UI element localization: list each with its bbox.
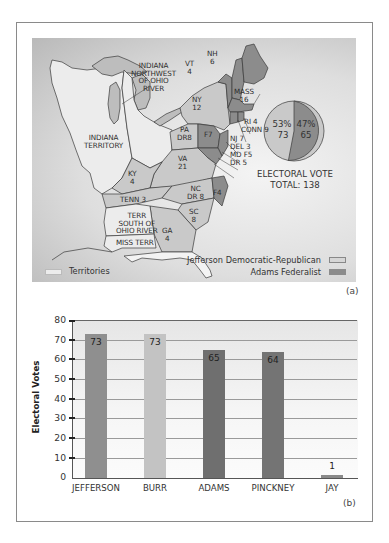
bar-burr (144, 334, 166, 478)
label-tenn: TENN 3 (120, 196, 146, 204)
ytick-mark (69, 320, 75, 322)
region-maine (242, 44, 268, 84)
label-nc-f: F4 (213, 189, 222, 197)
ytick-label: 50 (46, 373, 66, 384)
label-va: VA 21 (178, 155, 187, 170)
label-pa-f: F7 (204, 131, 213, 139)
label-sc: SC 8 (189, 208, 198, 223)
panel-label-b: (b) (343, 498, 356, 508)
lake-erie (154, 108, 182, 126)
gridline-80 (72, 320, 357, 321)
bar-value-burr: 73 (144, 337, 166, 347)
ytick-mark (69, 437, 75, 439)
label-vt: VT 4 (185, 60, 194, 75)
legend-swatch-republican (329, 257, 346, 263)
label-conn: CONN 9 (241, 126, 269, 134)
xtick-jay: JAY (297, 483, 367, 493)
label-indiana-territory: INDIANA TERRITORY (84, 134, 123, 149)
label-ny: NY 12 (192, 96, 202, 111)
bar-jay (321, 475, 343, 478)
label-ga: GA 4 (162, 227, 172, 242)
region-ny (180, 82, 230, 130)
ytick-label: 70 (46, 334, 66, 345)
ytick-label: 60 (46, 353, 66, 364)
label-ky: KY 4 (128, 170, 137, 185)
label-indiana-nw-ohio: INDIANA NORTHWEST OF OHIO RIVER (131, 62, 176, 92)
legend-swatch-territories (45, 269, 62, 275)
bar-value-pinckney: 64 (262, 355, 284, 365)
ytick-mark (69, 339, 75, 341)
bar-value-adams: 65 (203, 353, 225, 363)
label-terr-south-ohio: TERR SOUTH OF OHIO RIVER (116, 212, 158, 235)
ytick-mark (69, 457, 75, 459)
legend-republican: Jefferson Democratic-Republican (187, 255, 321, 265)
ytick-label: 40 (46, 393, 66, 404)
ytick-label: 80 (46, 314, 66, 325)
legend-swatch-federalist (329, 269, 346, 275)
pie-caption-line2: TOTAL: 138 (254, 180, 336, 190)
label-nc: NC DR 8 (187, 185, 204, 200)
ytick-mark (69, 417, 75, 419)
bar-value-jay: 1 (321, 461, 343, 471)
ytick-label: 10 (46, 452, 66, 463)
lake-michigan (108, 82, 120, 124)
bar-pinckney (262, 352, 284, 478)
region-conn (230, 112, 238, 124)
label-dr5: DR 5 (230, 159, 247, 167)
panel-label-a: (a) (346, 286, 359, 296)
region-indiana-territory (50, 60, 132, 194)
ytick-mark (69, 358, 75, 360)
pie-right-votes: 65 (296, 130, 316, 140)
bar-adams (203, 350, 225, 478)
legend-territories: Territories (69, 266, 110, 276)
electoral-map-panel: INDIANA NORTHWEST OF OHIO RIVER INDIANA … (32, 38, 356, 282)
pie-right-pct: 47% (296, 119, 316, 129)
label-mass: MASS 16 (234, 88, 254, 103)
label-miss-terr: MISS TERR (116, 239, 154, 247)
gridline-70 (72, 340, 357, 341)
ytick-mark (69, 398, 75, 400)
pie-left-votes: 73 (273, 130, 293, 140)
ytick-label: 0 (46, 471, 66, 482)
ytick-label: 30 (46, 412, 66, 423)
bar-jefferson (85, 334, 107, 478)
pie-caption-line1: ELECTORAL VOTE (254, 169, 336, 179)
label-pa-dr: PA DR8 (177, 126, 192, 141)
label-nh: NH 6 (207, 50, 218, 65)
legend-federalist: Adams Federalist (251, 267, 321, 277)
bar-value-jefferson: 73 (85, 337, 107, 347)
ytick-label: 20 (46, 432, 66, 443)
y-axis-label: Electoral Votes (31, 357, 41, 437)
ytick-mark (69, 378, 75, 380)
pie-left-pct: 53% (272, 119, 292, 129)
